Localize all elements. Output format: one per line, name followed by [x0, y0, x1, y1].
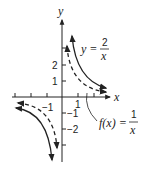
- svg-text:2: 2: [102, 37, 108, 48]
- x-axis-label: x: [113, 90, 120, 104]
- label-y-equals-2-over-x: y = 2 x: [80, 37, 109, 63]
- svg-text:x: x: [100, 49, 107, 63]
- hyperbola-diagram: −1 1 2 1 −1 −2 x y y = 2 x f(x) = 1 x: [0, 0, 146, 169]
- label-f-of-x-equals-1-over-x: f(x) = 1 x: [99, 109, 138, 137]
- x-ticks: [15, 93, 94, 97]
- y-tick-label-2: 2: [52, 60, 58, 71]
- y-tick-label-neg2: −2: [67, 124, 79, 135]
- y-tick-label-neg1: −1: [67, 108, 79, 119]
- svg-text:1: 1: [131, 109, 137, 120]
- y-axis-label: y: [57, 4, 64, 18]
- y-tick-label-1: 1: [52, 76, 58, 87]
- svg-text:f(x) =: f(x) =: [99, 116, 127, 130]
- svg-text:x: x: [129, 123, 136, 137]
- x-tick-label-neg1: −1: [42, 102, 54, 113]
- svg-text:y =: y =: [80, 42, 97, 56]
